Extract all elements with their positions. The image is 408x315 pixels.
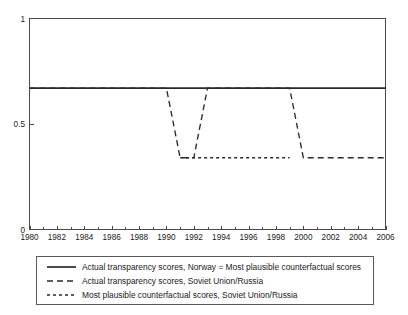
x-tick-label-1998: 1998 <box>267 233 286 242</box>
x-tick-label-1994: 1994 <box>212 233 231 242</box>
x-tick-label-2006: 2006 <box>376 233 395 242</box>
x-tick-label-1988: 1988 <box>130 233 149 242</box>
legend-label-2: Most plausible counterfactual scores, So… <box>82 290 298 300</box>
x-tick-label-2000: 2000 <box>294 233 313 242</box>
x-axis-labels: 1980198219841986198819901992199419961998… <box>20 233 395 242</box>
series-line-1 <box>30 88 386 158</box>
x-tick-label-1980: 1980 <box>20 233 39 242</box>
x-tick-label-1984: 1984 <box>75 233 94 242</box>
legend-label-0: Actual transparency scores, Norway = Mos… <box>82 262 361 272</box>
x-tick-label-1982: 1982 <box>48 233 67 242</box>
x-tick-label-1990: 1990 <box>157 233 176 242</box>
x-tick-label-1992: 1992 <box>185 233 204 242</box>
x-tick-label-2004: 2004 <box>349 233 368 242</box>
y-axis-labels: 1 0.5 0 <box>14 15 26 235</box>
y-tick-label-1: 1 <box>20 15 25 24</box>
chart-svg: 1 0.5 0 19801982198419861988199019921994… <box>0 0 408 315</box>
plot-frame <box>30 19 386 230</box>
legend-label-1: Actual transparency scores, Soviet Union… <box>82 276 263 286</box>
y-tick-label-0point5: 0.5 <box>14 120 26 129</box>
legend: Actual transparency scores, Norway = Mos… <box>37 257 374 305</box>
chart-figure: 1 0.5 0 19801982198419861988199019921994… <box>0 0 408 315</box>
x-tick-label-2002: 2002 <box>322 233 341 242</box>
x-tick-label-1986: 1986 <box>103 233 122 242</box>
x-tick-label-1996: 1996 <box>239 233 258 242</box>
x-axis-ticks <box>31 226 387 230</box>
data-series-layer <box>30 88 386 158</box>
plot-border <box>30 19 386 230</box>
